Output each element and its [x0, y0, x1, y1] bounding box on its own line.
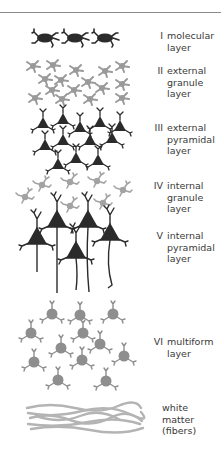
layer-name: internal granule layer: [167, 180, 203, 215]
layer-numeral: I: [141, 30, 163, 42]
layer-numeral: II: [141, 65, 163, 77]
layer-1-cells: [32, 29, 119, 47]
layer-name: multiform layer: [167, 336, 213, 359]
label-layer-3: III external pyramidal layer: [167, 122, 215, 157]
layer-3-cells: [31, 105, 132, 174]
white-matter-fibers: [27, 402, 144, 432]
layer-numeral: VI: [141, 336, 163, 348]
layer-name: molecular layer: [167, 30, 214, 53]
layer-name: internal pyramidal layer: [167, 230, 215, 265]
layer-numeral: IV: [141, 180, 163, 192]
label-layer-1: I molecular layer: [167, 30, 214, 53]
layer-numeral: V: [141, 230, 163, 242]
label-layer-6: VI multiform layer: [167, 336, 213, 359]
layer-name: external pyramidal layer: [167, 122, 215, 157]
layer-numeral: III: [141, 122, 163, 134]
layer-6-cells: [19, 301, 136, 390]
layer-2-cells: [27, 60, 129, 105]
layer-name: external granule layer: [167, 65, 206, 100]
layer-4-cells: [16, 172, 132, 212]
label-layer-2: II external granule layer: [167, 65, 206, 100]
label-layer-4: IV internal granule layer: [167, 180, 203, 215]
label-layer-5: V internal pyramidal layer: [167, 230, 215, 265]
layer-name: white matter (fibers): [162, 402, 196, 437]
label-white-matter: white matter (fibers): [162, 402, 196, 437]
